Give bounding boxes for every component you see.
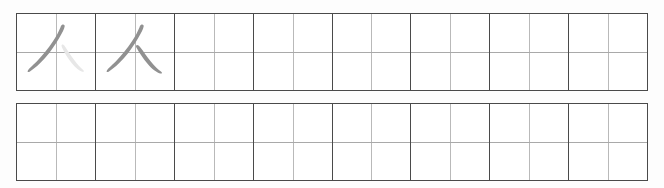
practice-cell[interactable] <box>569 104 648 180</box>
practice-cell[interactable] <box>333 14 412 90</box>
practice-cell[interactable] <box>333 104 412 180</box>
practice-cell[interactable] <box>254 104 333 180</box>
practice-cell[interactable] <box>490 104 569 180</box>
practice-cell[interactable] <box>96 14 175 90</box>
practice-cell[interactable] <box>569 14 648 90</box>
practice-cell[interactable] <box>17 104 96 180</box>
practice-cell[interactable] <box>175 14 254 90</box>
practice-cell[interactable] <box>411 104 490 180</box>
character-glyph-ren-model <box>96 14 174 90</box>
practice-grid-row <box>16 103 648 181</box>
stroke-na-trace-guide-icon <box>62 45 84 72</box>
character-practice-worksheet <box>0 0 664 188</box>
practice-cell[interactable] <box>96 104 175 180</box>
practice-cell[interactable] <box>17 14 96 90</box>
character-glyph-ren-partial-trace <box>17 14 95 90</box>
stroke-na-icon <box>136 45 162 74</box>
practice-cell[interactable] <box>175 104 254 180</box>
stroke-pie-icon <box>28 25 65 72</box>
practice-cell[interactable] <box>254 14 333 90</box>
practice-cell[interactable] <box>490 14 569 90</box>
practice-cell[interactable] <box>411 14 490 90</box>
practice-grid-row <box>16 13 648 91</box>
